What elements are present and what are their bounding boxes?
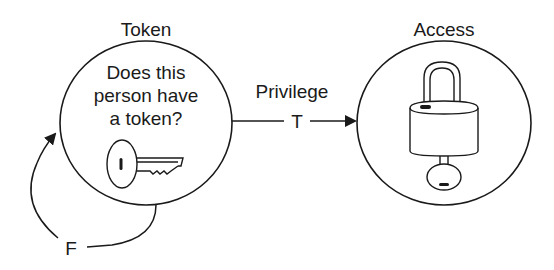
diagram-canvas [0,0,554,270]
token-question-line-3: a token? [71,107,221,130]
token-node-title: Token [121,20,172,39]
padlock-icon [410,62,478,190]
false-condition-label: F [65,239,77,258]
token-question: Does this person have a token? [71,61,221,130]
false-edge-loop [31,134,156,247]
token-question-line-1: Does this [71,61,221,84]
access-node-title: Access [413,20,474,39]
privilege-edge-label: Privilege [256,82,329,101]
key-icon [107,140,183,188]
token-question-line-2: person have [71,84,221,107]
true-condition-label: T [291,112,303,131]
